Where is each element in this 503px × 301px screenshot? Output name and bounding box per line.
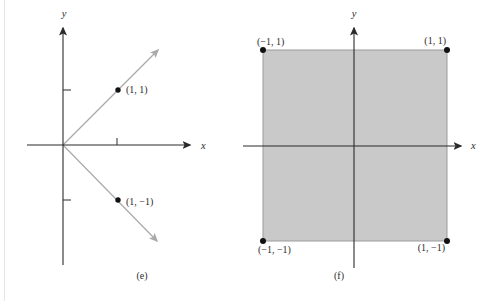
corner-label-1-1: (1, 1) xyxy=(424,35,446,47)
ray-through-1-1 xyxy=(63,50,158,145)
corner-label-1-neg1: (1, −1) xyxy=(418,242,445,254)
panel-e-caption: (e) xyxy=(136,270,147,282)
y-axis-label: y xyxy=(61,8,67,19)
corner-label-neg1-1: (−1, 1) xyxy=(257,36,284,48)
ray-through-1-neg1 xyxy=(63,145,157,241)
panel-e: y x (1, 1) (1, −1) (e) xyxy=(27,8,206,282)
point-label-1-1: (1, 1) xyxy=(126,84,148,96)
panel-f: y x (−1, 1) (1, 1) (−1, −1) (1, −1) (f) xyxy=(243,8,476,282)
x-axis-label: x xyxy=(200,140,206,151)
math-figure: y x (1, 1) (1, −1) (e) y x xyxy=(0,0,503,301)
panel-f-caption: (f) xyxy=(334,270,344,282)
point-1-1 xyxy=(115,87,120,92)
point-1-neg1 xyxy=(115,197,120,202)
x-axis-label: x xyxy=(470,140,476,151)
corner-neg1-1 xyxy=(260,47,266,53)
y-axis-label: y xyxy=(351,8,357,19)
corner-1-1 xyxy=(444,47,450,53)
figure-canvas: y x (1, 1) (1, −1) (e) y x xyxy=(0,0,503,301)
corner-label-neg1-neg1: (−1, −1) xyxy=(258,244,291,256)
point-label-1-neg1: (1, −1) xyxy=(126,196,153,208)
